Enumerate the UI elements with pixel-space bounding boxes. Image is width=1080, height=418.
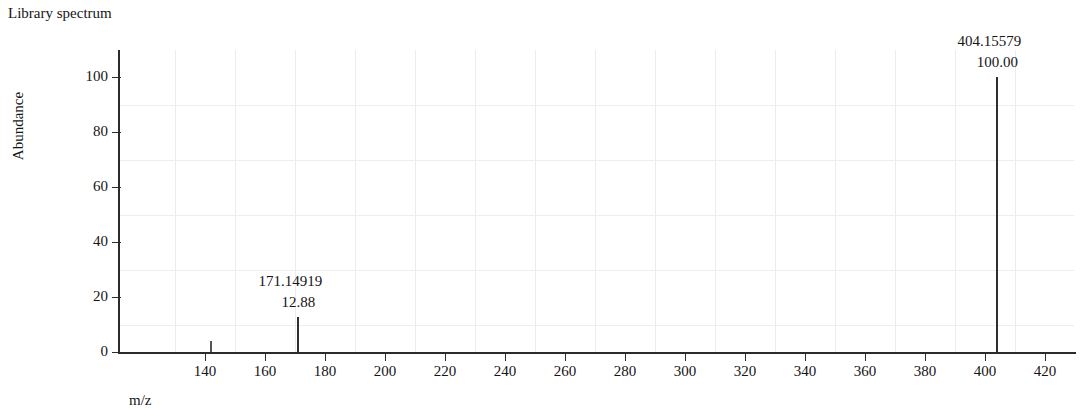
x-axis-tick-label: 220 — [415, 363, 475, 380]
y-axis-tick — [112, 132, 121, 133]
peak-mz-label: 171.14919 — [259, 272, 323, 291]
spectrum-peak — [210, 341, 212, 352]
x-axis-tick-label: 140 — [175, 363, 235, 380]
plot-area — [119, 50, 1074, 352]
x-axis-tick — [625, 353, 626, 361]
x-axis-tick-label: 380 — [895, 363, 955, 380]
x-axis-tick — [925, 353, 926, 361]
x-axis-tick-label: 240 — [475, 363, 535, 380]
x-axis-tick-label: 180 — [295, 363, 355, 380]
gridline-vertical — [895, 50, 896, 352]
x-axis-tick-label: 300 — [655, 363, 715, 380]
gridline-vertical — [535, 50, 536, 352]
gridline-vertical — [955, 50, 956, 352]
x-axis-tick — [985, 353, 986, 361]
x-axis-tick — [805, 353, 806, 361]
x-axis-tick-label: 160 — [235, 363, 295, 380]
x-axis-tick — [265, 353, 266, 361]
peak-abundance-label: 12.88 — [282, 293, 316, 312]
y-axis-tick-label: 20 — [60, 289, 108, 304]
spectrum-peak — [996, 77, 998, 352]
x-axis-tick-label: 360 — [835, 363, 895, 380]
peak-mz-label: 404.15579 — [958, 32, 1022, 51]
gridline-vertical — [475, 50, 476, 352]
y-axis-tick — [112, 297, 121, 298]
x-axis-tick-label: 400 — [955, 363, 1015, 380]
y-axis-tick-label: 0 — [60, 344, 108, 359]
gridlines — [119, 50, 1074, 352]
y-axis-title: Abundance — [10, 56, 26, 196]
x-axis-tick — [745, 353, 746, 361]
x-axis-title: m/z — [129, 392, 152, 409]
x-axis-tick — [445, 353, 446, 361]
y-axis-line — [118, 50, 120, 353]
spectrum-peak — [297, 317, 299, 352]
page-title: Library spectrum — [8, 4, 112, 22]
gridline-vertical — [1015, 50, 1016, 352]
gridline-vertical — [415, 50, 416, 352]
gridline-vertical — [235, 50, 236, 352]
y-axis-tick-label: 60 — [60, 179, 108, 194]
x-axis-tick — [685, 353, 686, 361]
x-axis-tick — [505, 353, 506, 361]
x-axis-tick-label: 280 — [595, 363, 655, 380]
y-axis-tick-label: 40 — [60, 234, 108, 249]
gridline-horizontal — [119, 270, 1074, 271]
gridline-horizontal — [119, 215, 1074, 216]
gridline-vertical — [655, 50, 656, 352]
x-axis-tick-label: 200 — [355, 363, 415, 380]
x-axis-tick — [865, 353, 866, 361]
x-axis-tick-label: 320 — [715, 363, 775, 380]
x-axis-tick — [385, 353, 386, 361]
x-axis-line — [118, 352, 1076, 354]
gridline-horizontal — [119, 160, 1074, 161]
y-axis-tick — [112, 352, 121, 353]
peak-abundance-label: 100.00 — [977, 53, 1018, 72]
x-axis-tick — [325, 353, 326, 361]
x-axis-tick-label: 340 — [775, 363, 835, 380]
gridline-vertical — [175, 50, 176, 352]
x-axis-tick — [205, 353, 206, 361]
y-axis-tick — [112, 187, 121, 188]
x-axis-tick-label: 260 — [535, 363, 595, 380]
gridline-vertical — [715, 50, 716, 352]
x-axis-tick — [1045, 353, 1046, 361]
gridline-vertical — [595, 50, 596, 352]
gridline-vertical — [355, 50, 356, 352]
y-axis-tick — [112, 242, 121, 243]
y-axis-tick-label: 100 — [60, 69, 108, 84]
x-axis-tick — [565, 353, 566, 361]
gridline-vertical — [835, 50, 836, 352]
gridline-horizontal — [119, 325, 1074, 326]
y-axis-tick-label: 80 — [60, 124, 108, 139]
gridline-vertical — [775, 50, 776, 352]
gridline-horizontal — [119, 105, 1074, 106]
y-axis-tick — [112, 77, 121, 78]
x-axis-tick-label: 420 — [1015, 363, 1075, 380]
